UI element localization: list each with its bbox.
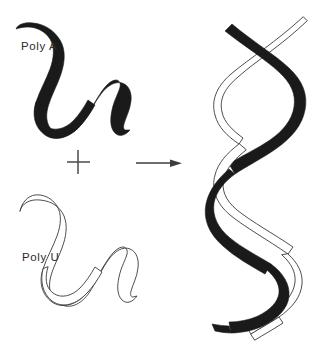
poly-u-label: Poly U (22, 251, 59, 263)
poly-a-poly-u-helix-diagram: Poly A Poly U (0, 0, 318, 342)
figure-root: Poly A Poly U (0, 0, 318, 342)
poly-a-label: Poly A (21, 40, 57, 52)
